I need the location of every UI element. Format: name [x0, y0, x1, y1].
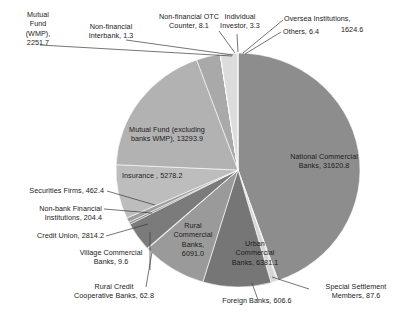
slice-label-village-commercial-banks: Village Commercial Banks, 9.6 — [66, 248, 156, 267]
slice-label-credit-union: Credit Union, 2814.2 — [14, 231, 104, 240]
slice-label-non-bank-financial: Non-bank Financial Institutions, 204.4 — [8, 204, 102, 223]
slice-label-insurance: Insurance , 5278.2 — [122, 171, 208, 180]
slice-label-oversea-institutions: Oversea Institutions, — [284, 14, 380, 23]
leader-line-special-settlement — [272, 277, 309, 289]
slice-label-mutual-fund-wmp: Mutual Fund (WMP), 2251.7 — [6, 10, 70, 48]
pie-chart-figure: Mutual Fund (WMP), 2251.7 Non-financial … — [0, 0, 404, 321]
slice-label-rural-commercial-banks: Rural Commercial Banks, 6091.0 — [162, 221, 224, 259]
slice-label-foreign-banks: Foreign Banks, 606.6 — [202, 296, 312, 305]
slice-label-mutual-fund-excluding: Mutual Fund (excluding banks WMP), 13293… — [112, 125, 222, 144]
slice-label-securities-firms: Securities Firms, 462.4 — [8, 186, 104, 195]
slice-label-urban-commercial-banks: Urban Commercial Banks, 6381.1 — [222, 239, 288, 267]
slice-label-rural-credit-cooperative: Rural Credit Cooperative Banks, 62.8 — [62, 282, 166, 301]
slice-label-oversea-institutions-value: 1624.6 — [341, 25, 383, 34]
leader-line-non-financial-otc — [219, 31, 235, 53]
slice-label-individual-investor: Individual Investor, 3.3 — [212, 12, 268, 31]
slice-label-non-financial-interbank: Non-financial Interbank, 1.3 — [72, 22, 150, 41]
slice-label-national-commercial-banks: National Commercial Banks, 31620.8 — [275, 152, 373, 171]
leader-line-others — [245, 32, 281, 54]
slice-label-special-settlement: Special Settlement Members, 87.6 — [310, 282, 402, 301]
slice-label-others: Others, 6.4 — [283, 27, 339, 36]
leader-line-individual-investor — [237, 34, 238, 52]
